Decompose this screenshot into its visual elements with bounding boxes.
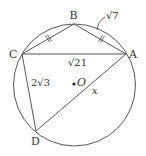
length-label-cd: 2√3 <box>31 77 50 88</box>
length-label-ba: √7 <box>106 10 119 21</box>
center-point <box>72 82 75 85</box>
label-c: C <box>9 48 17 61</box>
leader-arc-ba <box>97 17 105 30</box>
label-b: B <box>70 9 78 22</box>
label-d: D <box>31 135 40 148</box>
length-label-ca: √21 <box>68 57 87 68</box>
geometry-figure: B C A D O √7 √21 2√3 x <box>0 0 146 156</box>
label-a: A <box>128 48 138 61</box>
label-o: O <box>77 76 86 89</box>
length-label-da: x <box>92 85 98 96</box>
